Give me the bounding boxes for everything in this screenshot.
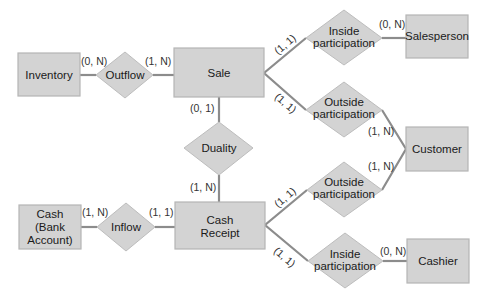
cardinality-sale-outside: (1, 1) xyxy=(273,90,299,115)
entity-cash-receipt-label-line1: Cash xyxy=(207,214,234,226)
relationship-receipt-inside-label-line2: participation xyxy=(314,260,376,272)
cardinality-outflow-sale: (1, N) xyxy=(145,55,171,67)
relationship-outflow-label: Outflow xyxy=(106,69,146,81)
connector-outside-customer xyxy=(382,110,406,190)
entity-cash-label-line2: (Bank xyxy=(35,221,65,233)
entity-customer-label: Customer xyxy=(412,143,462,155)
cardinality-outside-customer-bottom: (1, N) xyxy=(368,160,394,172)
relationship-receipt-outside-label-line2: participation xyxy=(313,188,375,200)
entity-salesperson[interactable]: Salesperson xyxy=(405,15,469,58)
entity-customer[interactable]: Customer xyxy=(406,127,468,171)
entity-cash-receipt[interactable]: Cash Receipt xyxy=(175,202,265,249)
relationship-sale-inside-label-line1: Inside xyxy=(329,25,360,37)
cardinality-sale-duality: (0, 1) xyxy=(190,102,215,114)
relationship-receipt-inside-participation[interactable]: Inside participation xyxy=(308,233,383,288)
cardinality-cash-inflow: (1, N) xyxy=(82,206,108,218)
cardinality-inventory-outflow: (0, N) xyxy=(81,55,107,67)
entity-cash-receipt-label-line2: Receipt xyxy=(201,227,241,239)
cardinality-receipt-outside: (1, 1) xyxy=(272,185,298,210)
entity-sale-label: Sale xyxy=(207,67,230,79)
entity-sale[interactable]: Sale xyxy=(174,48,264,97)
er-diagram: Inventory Sale Salesperson Customer Cash… xyxy=(0,0,487,295)
relationship-sale-inside-label-line2: participation xyxy=(313,37,375,49)
entity-cashier-label: Cashier xyxy=(418,255,458,267)
entity-cash-label-line1: Cash xyxy=(37,208,64,220)
entity-inventory-label: Inventory xyxy=(25,69,73,81)
relationship-duality[interactable]: Duality xyxy=(184,122,253,175)
cardinality-inflow-receipt: (1, 1) xyxy=(149,206,174,218)
cardinality-inside-salesperson: (0, N) xyxy=(379,18,405,30)
relationship-receipt-inside-label-line1: Inside xyxy=(330,248,361,260)
cardinality-outside-customer-top: (1, N) xyxy=(368,125,394,137)
relationship-receipt-outside-label-line1: Outside xyxy=(324,176,364,188)
relationship-duality-label: Duality xyxy=(201,142,236,154)
entity-salesperson-label: Salesperson xyxy=(405,30,469,42)
cardinality-inside-cashier: (0, N) xyxy=(380,245,406,257)
entity-inventory[interactable]: Inventory xyxy=(18,53,80,96)
relationship-inflow-label: Inflow xyxy=(111,221,142,233)
cardinality-duality-receipt: (1, N) xyxy=(190,181,216,193)
relationship-sale-outside-label-line2: participation xyxy=(313,108,375,120)
relationship-sale-inside-participation[interactable]: Inside participation xyxy=(306,10,382,65)
entity-cash-label-line3: Account) xyxy=(27,234,73,246)
entity-cashier[interactable]: Cashier xyxy=(407,239,469,283)
relationship-sale-outside-label-line1: Outside xyxy=(324,96,364,108)
cardinality-sale-inside: (1, 1) xyxy=(272,32,298,57)
entity-cash[interactable]: Cash (Bank Account) xyxy=(19,205,81,249)
